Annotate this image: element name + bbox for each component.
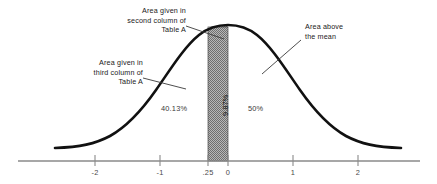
tick-label-neg1: -1 [148,168,172,177]
tick-label-neg-quarter: .25 [197,168,219,177]
shaded-area-band [208,20,228,161]
normal-curve-figure: Area given in second column of Table A A… [0,0,437,184]
tick-label-pos1: 1 [283,168,303,177]
tick-label-zero: 0 [218,168,238,177]
tick-label-neg2: -2 [83,168,107,177]
tick-label-pos2: 2 [348,168,368,177]
annotation-second-column: Area given in second column of Table A [106,6,186,35]
area-label-right-half: 50% [248,104,263,113]
area-label-band: 9.87% [221,95,230,116]
annotation-above-mean: Area above the mean [305,22,385,41]
annotation-third-column: Area given in third column of Table A [63,58,143,87]
area-label-left-of-band: 40.13% [161,104,187,113]
